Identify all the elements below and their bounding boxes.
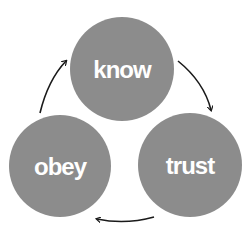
arrow-trust-to-obey: [97, 217, 154, 222]
node-trust: trust: [138, 113, 242, 217]
cycle-diagram: know trust obey: [0, 0, 250, 238]
arrow-know-to-trust: [178, 61, 211, 110]
node-trust-label: trust: [166, 152, 215, 179]
node-know-label: know: [93, 56, 152, 83]
node-obey: obey: [9, 115, 111, 217]
node-know: know: [70, 17, 174, 121]
node-obey-label: obey: [34, 153, 88, 180]
arrow-obey-to-know: [40, 61, 66, 113]
